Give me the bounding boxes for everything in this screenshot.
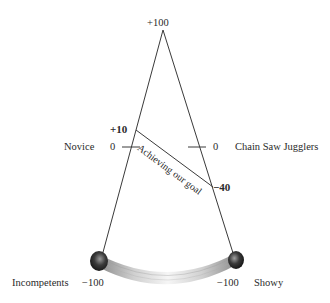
left-zero-label: 0 — [110, 141, 115, 153]
goal-start-value: +10 — [110, 123, 127, 135]
left-pendulum-ball — [90, 251, 108, 271]
right-pendulum-line — [163, 30, 233, 253]
goal-end-value: −40 — [213, 181, 230, 193]
pendulum-swing-arc — [100, 253, 236, 284]
right-axis-name: Chain Saw Jugglers — [235, 141, 318, 153]
right-bottom-value: −100 — [217, 277, 239, 289]
right-zero-label: 0 — [213, 141, 218, 153]
right-pendulum-ball — [228, 251, 244, 269]
right-bottom-name: Showy — [254, 277, 283, 289]
left-bottom-value: −100 — [82, 277, 104, 289]
left-bottom-name: Incompetents — [12, 277, 69, 289]
apex-label: +100 — [147, 17, 169, 29]
left-axis-name: Novice — [64, 141, 94, 153]
